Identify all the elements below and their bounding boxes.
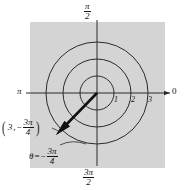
radial-tick-3: 3 [148, 96, 152, 104]
point-comma: , [13, 123, 15, 132]
angle-label-pi-over-2: π 2 [84, 2, 91, 21]
polar-coordinate-figure: π 2 3π 2 π 0 1 2 3 ( 3 , − 3π 4 ) [0, 0, 189, 190]
point-label-row: ( 3 , − 3π 4 ) [1, 118, 40, 137]
zero-direction-arrowhead [164, 91, 170, 95]
fraction-pi-over-2: π 2 [84, 2, 91, 21]
radial-tick-1: 1 [114, 96, 118, 104]
theta-label-row: θ = − 3π 4 [29, 147, 58, 166]
angle-label-zero: 0 [172, 87, 177, 96]
fraction-denominator: 2 [83, 178, 94, 187]
theta-equation-label: θ = − 3π 4 [29, 147, 58, 166]
fraction-3pi-over-4: 3π 4 [47, 147, 58, 166]
open-paren: ( [2, 121, 6, 135]
angle-label-pi: π [17, 87, 22, 96]
point-coordinate-label: ( 3 , − 3π 4 ) [1, 118, 40, 137]
point-radius-value: 3 [8, 123, 13, 132]
fraction-denominator: 4 [47, 157, 58, 166]
theta-symbol: θ [29, 152, 33, 161]
radial-tick-2: 2 [131, 96, 135, 104]
fraction-denominator: 4 [23, 128, 34, 137]
point-minus-sign: − [16, 123, 21, 132]
equals-sign: = [34, 152, 39, 161]
angle-label-3pi-over-2: 3π 2 [83, 168, 94, 187]
close-paren: ) [36, 121, 40, 135]
fraction-3pi-over-4: 3π 4 [23, 118, 34, 137]
theta-minus-sign: − [41, 152, 46, 161]
fraction-3pi-over-2: 3π 2 [83, 168, 94, 187]
fraction-denominator: 2 [84, 12, 91, 21]
